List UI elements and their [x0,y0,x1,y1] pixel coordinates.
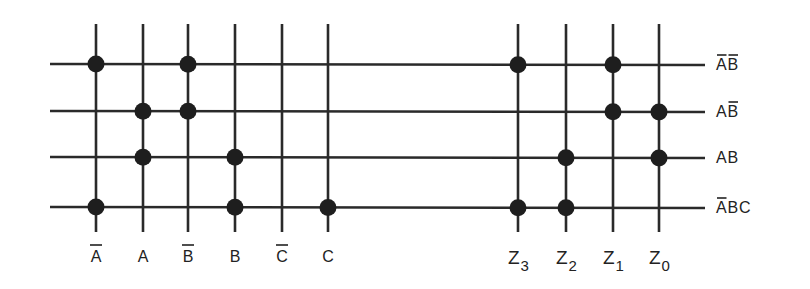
term-label-notA_B_C-1: B [728,199,739,216]
input-label-C: C [322,248,334,265]
connection-dot-A_B-Z0 [651,149,668,166]
connection-dot-notA_B_C-Z3 [510,199,527,216]
connection-dot-A_notB-Z0 [651,103,668,120]
input-label-A: A [138,248,149,265]
pla-diagram: AABBCCZ3Z2Z1Z0 ABABABABC [0,0,810,289]
connection-dots [88,56,668,217]
connection-dot-notA_B_C-Z2 [558,199,575,216]
term-label-A_B-0: A [716,149,727,166]
input-label-A_bar: A [91,248,102,265]
connection-dot-notA_notB-Z1 [605,56,622,73]
connection-dot-notA_notB-B_bar [180,56,197,73]
term-label-A_notB-1: B [728,103,739,120]
connection-dot-notA_B_C-C [320,199,337,216]
output-label-Z0: Z0 [649,247,670,274]
term-label-notA_notB-1: B [728,56,739,73]
connection-dot-notA_notB-A_bar [88,56,105,73]
input-label-C_bar: C [276,248,288,265]
term-label-notA_notB-0: A [716,56,727,73]
output-label-Z2: Z2 [556,247,577,274]
output-label-Z1: Z1 [603,247,624,274]
connection-dot-A_B-A [135,149,152,166]
product-term-labels: ABABABABC [716,55,751,216]
output-label-Z3: Z3 [508,247,529,274]
term-label-A_notB-0: A [716,103,727,120]
connection-dot-A_B-Z2 [558,149,575,166]
term-label-notA_B_C-2: C [739,199,751,216]
connection-dot-A_B-B [227,149,244,166]
product-term-lines [50,64,705,208]
connection-dot-notA_notB-Z3 [510,56,527,73]
term-label-notA_B_C-0: A [716,199,727,216]
column-lines [96,24,659,232]
product-term-line-notA_B_C [50,207,705,208]
input-label-B_bar: B [183,248,194,265]
connection-dot-A_notB-B_bar [180,103,197,120]
connection-dot-A_notB-A [135,103,152,120]
term-label-A_B-1: B [728,149,739,166]
connection-dot-notA_B_C-A_bar [88,199,105,216]
connection-dot-A_notB-Z1 [605,103,622,120]
input-label-B: B [230,248,241,265]
connection-dot-notA_B_C-B [227,199,244,216]
column-labels: AABBCCZ3Z2Z1Z0 [90,245,670,274]
